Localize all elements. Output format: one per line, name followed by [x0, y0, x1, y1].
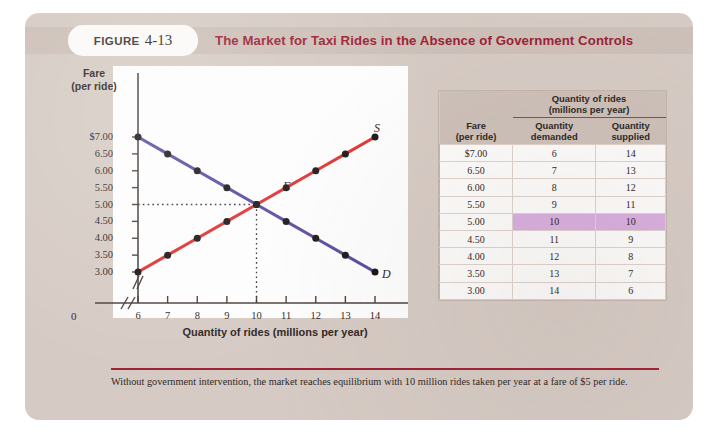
table-header-quantity-group: Quantity of rides (millions per year)	[513, 91, 666, 118]
table-cell-fare: 5.50	[440, 196, 513, 213]
table-header-group-line1: Quantity of rides	[515, 93, 664, 104]
caption-divider	[111, 368, 659, 370]
table-cell-quantity-supplied: 10	[596, 213, 666, 230]
table-cell-quantity-demanded: 12	[513, 248, 596, 265]
y-axis-label-line2: (per ride)	[63, 80, 125, 93]
table-cell-quantity-demanded: 7	[513, 162, 596, 179]
table-header-quantity-demanded: Quantity demanded	[513, 118, 596, 145]
table-header-supplied-line2: supplied	[598, 131, 664, 142]
figure-label-word: FIGURE	[94, 35, 140, 47]
table-cell-fare: 3.00	[440, 282, 513, 299]
table-header-supplied-line1: Quantity	[598, 120, 664, 131]
x-axis-tick-8: 8	[187, 310, 207, 321]
table-header-fare: Fare (per ride)	[440, 91, 513, 145]
y-axis-tick-450: 4.50	[69, 215, 113, 226]
table-row: 5.001010	[440, 213, 666, 230]
equilibrium-point-label: E	[283, 179, 291, 194]
table-cell-quantity-supplied: 7	[596, 265, 666, 282]
y-axis-tick-300: 3.00	[69, 266, 113, 277]
x-axis-tick-14: 14	[365, 310, 385, 321]
figure-panel: FIGURE 4-13 The Market for Taxi Rides in…	[25, 13, 693, 420]
x-axis-tick-9: 9	[217, 310, 237, 321]
table-row: 5.50911	[440, 196, 666, 213]
table-cell-fare: 5.00	[440, 213, 513, 230]
table-header-group-line2: (millions per year)	[515, 104, 664, 115]
table-row: $7.00614	[440, 145, 666, 162]
table-cell-fare: 6.50	[440, 162, 513, 179]
figure-number-pill: FIGURE 4-13	[68, 25, 198, 56]
table-cell-fare: $7.00	[440, 145, 513, 162]
x-axis-label: Quantity of rides (millions per year)	[135, 326, 415, 338]
y-axis-tick-350: 3.50	[69, 249, 113, 260]
x-axis-tick-6: 6	[128, 310, 148, 321]
table-row: 4.50119	[440, 230, 666, 247]
table-cell-quantity-demanded: 6	[513, 145, 596, 162]
x-axis-tick-10: 10	[247, 310, 267, 321]
table-row: 6.00812	[440, 179, 666, 196]
y-axis-tick-700: $7.00	[69, 131, 113, 142]
table-cell-fare: 4.00	[440, 248, 513, 265]
table-cell-quantity-supplied: 6	[596, 282, 666, 299]
x-axis-tick-12: 12	[306, 310, 326, 321]
table-cell-quantity-supplied: 13	[596, 162, 666, 179]
y-axis-tick-600: 6.00	[69, 165, 113, 176]
table-header-quantity-supplied: Quantity supplied	[596, 118, 666, 145]
table-row: 3.00146	[440, 282, 666, 299]
table-cell-quantity-supplied: 12	[596, 179, 666, 196]
y-axis-tick-500: 5.00	[69, 199, 113, 210]
table-body: $7.006146.507136.008125.509115.0010104.5…	[440, 145, 666, 300]
table-header-demanded-line1: Quantity	[515, 120, 594, 131]
table-cell-quantity-demanded: 11	[513, 230, 596, 247]
table-cell-quantity-supplied: 8	[596, 248, 666, 265]
figure-number: 4-13	[145, 32, 173, 49]
table-cell-quantity-demanded: 8	[513, 179, 596, 196]
table-cell-quantity-demanded: 9	[513, 196, 596, 213]
table-cell-fare: 4.50	[440, 230, 513, 247]
figure-title: The Market for Taxi Rides in the Absence…	[215, 33, 633, 48]
table-cell-quantity-demanded: 14	[513, 282, 596, 299]
y-axis-tick-400: 4.00	[69, 232, 113, 243]
table-cell-quantity-supplied: 11	[596, 196, 666, 213]
table-cell-fare: 6.00	[440, 179, 513, 196]
table-header-fare-line2: (per ride)	[442, 131, 511, 142]
table-cell-quantity-demanded: 13	[513, 265, 596, 282]
y-axis-label-line1: Fare	[63, 67, 125, 80]
demand-curve-label: D	[382, 267, 391, 282]
figure-caption: Without government intervention, the mar…	[111, 375, 663, 389]
table-header-fare-line1: Fare	[442, 120, 511, 131]
table-cell-quantity-supplied: 9	[596, 230, 666, 247]
supply-demand-table: Fare (per ride) Quantity of rides (milli…	[439, 91, 666, 300]
table-cell-quantity-demanded: 10	[513, 213, 596, 230]
table-cell-fare: 3.50	[440, 265, 513, 282]
supply-curve-label: S	[374, 121, 380, 136]
table-row: 6.50713	[440, 162, 666, 179]
y-axis-label: Fare (per ride)	[63, 67, 125, 93]
table-header-demanded-line2: demanded	[515, 131, 594, 142]
x-axis-tick-7: 7	[158, 310, 178, 321]
chart-plot-area	[113, 66, 408, 318]
x-axis-tick-13: 13	[335, 310, 355, 321]
table-cell-quantity-supplied: 14	[596, 145, 666, 162]
y-axis-tick-650: 6.50	[69, 148, 113, 159]
y-axis-tick-550: 5.50	[69, 182, 113, 193]
table-row: 4.00128	[440, 248, 666, 265]
table-row: 3.50137	[440, 265, 666, 282]
x-axis-origin-tick: 0	[71, 310, 77, 322]
x-axis-tick-11: 11	[276, 310, 296, 321]
